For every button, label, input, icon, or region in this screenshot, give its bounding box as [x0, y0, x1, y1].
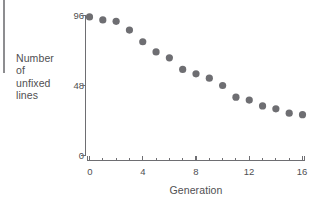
data-point — [272, 105, 279, 112]
data-point — [86, 13, 93, 20]
data-series — [86, 13, 306, 118]
data-point — [219, 82, 226, 89]
plot-area — [0, 0, 324, 207]
data-point — [166, 54, 173, 61]
data-point — [152, 48, 159, 55]
data-point — [206, 75, 213, 82]
data-point — [259, 102, 266, 109]
data-point — [286, 110, 293, 117]
data-point — [179, 66, 186, 73]
data-point — [232, 94, 239, 101]
data-point — [299, 111, 306, 118]
data-point — [139, 38, 146, 45]
data-point — [126, 26, 133, 33]
data-point — [192, 70, 199, 77]
data-point — [99, 16, 106, 23]
data-point — [113, 18, 120, 25]
data-point — [246, 96, 253, 103]
scatter-chart-figure: Number of unfixed lines 96 48 0 0 4 8 12… — [0, 0, 324, 207]
